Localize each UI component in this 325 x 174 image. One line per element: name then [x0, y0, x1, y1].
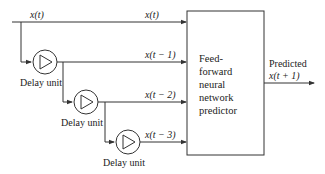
- delay-unit-2-icon: [74, 90, 98, 114]
- predictor-label: Feed- forward neural network predictor: [199, 52, 261, 117]
- delay-unit-3-label: Delay unit: [103, 157, 145, 168]
- predictor-line: network: [199, 91, 261, 104]
- predictor-line: neural: [199, 78, 261, 91]
- output-value-label: x(t + 1): [269, 70, 300, 81]
- tap-label-3: x(t − 3): [145, 129, 176, 140]
- branch-to-delay-3: [105, 102, 114, 142]
- delay-1-triangle-icon: [40, 55, 52, 69]
- delay-2-triangle-icon: [81, 95, 93, 109]
- output-label: Predicted: [269, 58, 307, 69]
- branch-to-delay-1: [21, 22, 31, 62]
- predictor-line: predictor: [199, 104, 261, 117]
- delay-3-triangle-icon: [123, 135, 135, 149]
- delay-unit-3-icon: [116, 130, 140, 154]
- tap-label-0: x(t): [145, 9, 159, 20]
- tap-label-2: x(t − 2): [145, 89, 176, 100]
- tap-label-1: x(t − 1): [145, 49, 176, 60]
- delay-unit-1-icon: [33, 50, 57, 74]
- delay-unit-2-label: Delay unit: [61, 117, 103, 128]
- input-label: x(t): [30, 9, 44, 20]
- predictor-line: Feed-: [199, 52, 261, 65]
- branch-to-delay-2: [63, 62, 72, 102]
- delay-unit-1-label: Delay unit: [20, 77, 62, 88]
- predictor-line: forward: [199, 65, 261, 78]
